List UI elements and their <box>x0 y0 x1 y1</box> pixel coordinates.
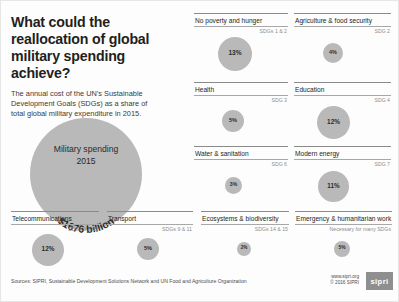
panel-sdg-tag: SDGs 9 & 11 <box>107 225 193 233</box>
sources-text: Sources: SIPRI, Sustainable Development … <box>11 278 247 284</box>
page-subtitle: The annual cost of the UN's Sustainable … <box>11 89 163 120</box>
panel-bubble-area: 13% <box>194 35 288 77</box>
panel-title: Telecommunications <box>11 212 99 224</box>
panel-percent-bubble: 4% <box>323 43 343 63</box>
panel-percent-bubble: 12% <box>32 234 64 266</box>
panel-agriculture-and-food-security: Agriculture & food security SDG 2 4% <box>294 13 391 77</box>
panel-sdg-tag: SDGs 1 & 2 <box>194 27 288 35</box>
panel-title: Water & sanitation <box>194 147 288 159</box>
panel-title: Emergency & humanitarian work <box>295 212 392 224</box>
panel-percent-bubble: 5% <box>137 238 159 260</box>
panel-title: Ecosystems & biodiversity <box>201 212 289 224</box>
panel-percent-bubble: 5% <box>334 241 350 257</box>
footer: Sources: SIPRI, Sustainable Development … <box>0 268 399 302</box>
sipri-logo: sipri <box>366 272 393 290</box>
panel-percent-bubble: 12% <box>317 106 350 139</box>
panel-sdg-tag: SDG 6 <box>194 160 288 168</box>
panel-title: Modern energy <box>294 147 391 159</box>
panel-title: Health <box>194 83 288 95</box>
panel-sdg-tag: SDGs 14 & 15 <box>201 225 289 233</box>
panel-bubble-area: 4% <box>294 35 391 77</box>
panel-ecosystems-and-biodiversity: Ecosystems & biodiversity SDGs 14 & 15 2… <box>201 211 289 275</box>
panel-percent-bubble: 13% <box>218 37 252 71</box>
panel-percent-bubble: 3% <box>225 177 242 194</box>
panel-water-and-sanitation: Water & sanitation SDG 6 3% <box>194 146 288 210</box>
panel-sdg-tag: SDG 4 <box>294 96 391 104</box>
panel-bubble-area: 11% <box>294 168 391 210</box>
site-info: www.sipri.org © 2016 SIPRI <box>330 274 359 287</box>
page-title: What could the reallocation of global mi… <box>11 14 176 82</box>
panel-title: Transport <box>107 212 193 224</box>
panel-sdg-tag: SDGs 9 & 11 <box>11 225 99 233</box>
panel-title: No poverty and hunger <box>194 14 288 26</box>
panel-percent-bubble: 11% <box>318 171 349 202</box>
panel-bubble-area: 3% <box>194 168 288 210</box>
panel-percent-bubble: 5% <box>222 110 244 132</box>
panel-sdg-tag: SDG 3 <box>194 96 288 104</box>
panel-sdg-tag: SDG 2 <box>294 27 391 35</box>
panel-title: Agriculture & food security <box>294 14 391 26</box>
panel-telecommunications: Telecommunications SDGs 9 & 11 12% <box>11 211 99 275</box>
panel-transport: Transport SDGs 9 & 11 5% <box>107 211 193 275</box>
panel-sdg-tag: SDG 7 <box>294 160 391 168</box>
copyright-text: © 2016 SIPRI <box>330 280 359 286</box>
panel-health: Health SDG 3 5% <box>194 82 288 146</box>
panel-modern-energy: Modern energy SDG 7 11% <box>294 146 391 210</box>
panel-sdg-tag: Necessary for many SDGs <box>295 225 392 233</box>
panel-percent-bubble: 2% <box>237 242 251 256</box>
panel-title: Education <box>294 83 391 95</box>
infographic-page: What could the reallocation of global mi… <box>0 0 399 302</box>
panel-bubble-area: 5% <box>194 104 288 146</box>
panel-emergency-and-humanitarian-work: Emergency & humanitarian work Necessary … <box>295 211 392 275</box>
panel-no-poverty-and-hunger: No poverty and hunger SDGs 1 & 2 13% <box>194 13 288 77</box>
panel-education: Education SDG 4 12% <box>294 82 391 146</box>
panel-bubble-area: 12% <box>294 104 391 146</box>
